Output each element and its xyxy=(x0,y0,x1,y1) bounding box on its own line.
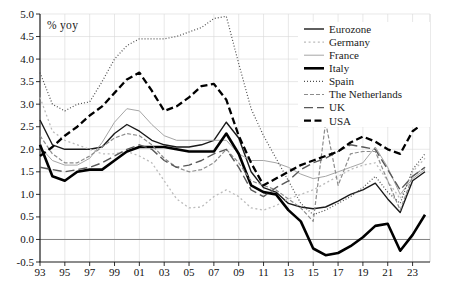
y-tick-label: 1.0 xyxy=(20,188,34,200)
y-tick-label: 2.0 xyxy=(20,143,34,155)
y-tick-label: 1.5 xyxy=(20,165,34,177)
y-tick-label: -0.5 xyxy=(17,256,35,268)
y-tick-label: 4.5 xyxy=(20,30,34,42)
x-tick-label: 99 xyxy=(109,266,121,278)
legend-label-italy: Italy xyxy=(329,62,350,74)
legend-label-usa: USA xyxy=(329,115,351,127)
y-tick-label: 3.5 xyxy=(20,75,34,87)
y-tick-label: 0.0 xyxy=(20,233,34,245)
series-line-eurozone xyxy=(40,120,425,212)
y-tick-label: 3.0 xyxy=(20,98,34,110)
x-tick-label: 17 xyxy=(333,266,345,278)
x-tick-label: 07 xyxy=(208,266,220,278)
legend-label-the-netherlands: The Netherlands xyxy=(329,88,402,100)
legend-label-spain: Spain xyxy=(329,75,355,87)
y-tick-label: 5.0 xyxy=(20,8,34,20)
x-tick-label: 13 xyxy=(283,266,295,278)
legend-label-eurozone: Eurozone xyxy=(329,23,371,35)
x-tick-label: 03 xyxy=(159,266,171,278)
x-tick-label: 09 xyxy=(233,266,245,278)
legend-label-germany: Germany xyxy=(329,36,370,48)
x-tick-label: 15 xyxy=(308,266,320,278)
x-tick-label: 23 xyxy=(407,266,419,278)
legend-label-france: France xyxy=(329,49,359,61)
legend-label-uk: UK xyxy=(329,101,345,113)
y-tick-label: 4.0 xyxy=(20,53,34,65)
x-tick-label: 11 xyxy=(258,266,269,278)
x-tick-label: 05 xyxy=(184,266,196,278)
x-tick-label: 93 xyxy=(35,266,47,278)
chart-canvas: 5.04.54.03.53.02.52.01.51.00.50.0-0.5939… xyxy=(0,0,462,287)
axis-unit-label: % yoy xyxy=(47,19,78,31)
x-tick-label: 19 xyxy=(357,266,369,278)
x-tick-label: 97 xyxy=(84,266,96,278)
legend: EurozoneGermanyFranceItalySpainThe Nethe… xyxy=(298,22,430,127)
x-tick-label: 95 xyxy=(59,266,71,278)
y-tick-label: 0.5 xyxy=(20,210,34,222)
chart-figure: 5.04.54.03.53.02.52.01.51.00.50.0-0.5939… xyxy=(0,0,462,287)
x-tick-label: 01 xyxy=(134,266,145,278)
y-tick-label: 2.5 xyxy=(20,120,34,132)
x-tick-label: 21 xyxy=(382,266,393,278)
